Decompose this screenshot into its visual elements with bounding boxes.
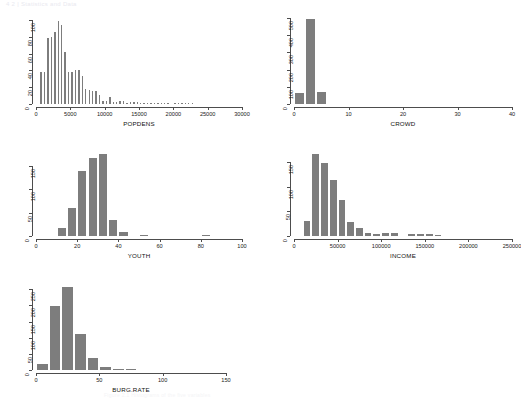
y-tick-label: 100 [30, 23, 36, 32]
histogram-bar [166, 103, 169, 104]
histogram-bar [88, 158, 98, 236]
y-tick-mark [29, 236, 32, 237]
histogram-bar [191, 103, 194, 104]
histogram-bar [57, 228, 67, 236]
y-tick-mark [29, 20, 32, 21]
y-tick-label: 500 [288, 21, 294, 30]
y-tick-mark [287, 35, 290, 36]
histogram-bar [108, 220, 118, 236]
x-tick-mark [105, 107, 106, 110]
histogram-bar [36, 364, 49, 370]
y-tick-mark [287, 70, 290, 71]
histogram-bar [112, 369, 125, 370]
histogram-bar [372, 234, 381, 236]
y-tick-label: 80 [27, 40, 33, 46]
x-tick-mark [294, 239, 295, 242]
x-tick-mark [36, 239, 37, 242]
y-tick-label: 150 [288, 165, 294, 174]
x-tick-label: 10 [345, 111, 351, 117]
x-tick-label: 50 [96, 377, 102, 383]
y-tick-label: 50 [285, 214, 291, 220]
x-tick-mark [403, 107, 404, 110]
x-tick-label: 100 [158, 377, 167, 383]
x-tick-mark [425, 239, 426, 242]
x-axis-line [36, 239, 242, 240]
histogram-bar [416, 234, 425, 236]
x-tick-label: 30000 [234, 111, 250, 117]
y-tick-mark [287, 18, 290, 19]
x-tick-label: 50000 [330, 243, 346, 249]
x-tick-mark [201, 239, 202, 242]
histogram-bar [49, 306, 62, 370]
y-tick-label: 200 [30, 308, 36, 317]
x-tick-mark [226, 373, 227, 376]
y-tick-mark [287, 162, 290, 163]
x-axis-title: POPDENS [123, 120, 155, 127]
y-tick-mark [287, 104, 290, 105]
x-tick-label: 20 [74, 243, 80, 249]
x-tick-mark [118, 239, 119, 242]
x-tick-mark [139, 107, 140, 110]
x-tick-label: 0 [34, 377, 37, 383]
x-axis-title: INCOME [390, 252, 416, 259]
x-tick-label: 60 [156, 243, 162, 249]
y-tick-label: 250 [30, 292, 36, 301]
x-tick-label: 30 [454, 111, 460, 117]
histogram-bar [118, 232, 128, 236]
y-tick-mark [29, 70, 32, 71]
x-tick-label: 0 [292, 111, 295, 117]
y-tick-mark [29, 189, 32, 190]
y-tick-mark [29, 87, 32, 88]
x-tick-mark [99, 373, 100, 376]
x-axis-line [36, 373, 226, 374]
x-tick-label: 100 [237, 243, 246, 249]
x-tick-mark [349, 107, 350, 110]
histogram-bar [390, 233, 399, 236]
y-tick-label: 300 [288, 55, 294, 64]
x-tick-mark [512, 107, 513, 110]
x-tick-mark [208, 107, 209, 110]
x-tick-label: 25000 [200, 111, 216, 117]
histogram-bar [346, 222, 355, 236]
histogram-bar [355, 228, 364, 236]
histogram-bar [67, 208, 77, 236]
y-tick-mark [29, 37, 32, 38]
x-tick-label: 20 [400, 111, 406, 117]
y-tick-mark [29, 289, 32, 290]
x-tick-mark [381, 239, 382, 242]
x-tick-label: 80 [198, 243, 204, 249]
histogram-bar [305, 19, 316, 104]
histogram-bar [74, 334, 87, 370]
histogram-bar [139, 235, 149, 236]
x-tick-mark [242, 107, 243, 110]
y-tick-label: 150 [30, 169, 36, 178]
y-tick-mark [29, 213, 32, 214]
y-tick-mark [29, 370, 32, 371]
y-tick-mark [287, 187, 290, 188]
histogram-bar [338, 200, 347, 236]
x-tick-mark [338, 239, 339, 242]
x-tick-mark [36, 373, 37, 376]
histogram-bar [425, 234, 434, 236]
y-tick-label: 20 [27, 90, 33, 96]
page-footer-caption: Figure 2.1 Histograms of the five variab… [104, 392, 211, 398]
histogram-bar [61, 287, 74, 370]
y-tick-mark [29, 338, 32, 339]
x-tick-mark [70, 107, 71, 110]
x-tick-label: 100000 [372, 243, 391, 249]
x-tick-label: 0 [34, 243, 37, 249]
y-tick-label: 60 [27, 57, 33, 63]
y-tick-label: 150 [30, 325, 36, 334]
x-axis-title: YOUTH [128, 252, 151, 259]
histogram-bar [87, 358, 100, 370]
x-tick-mark [173, 107, 174, 110]
x-tick-label: 150000 [415, 243, 434, 249]
y-tick-label: 200 [288, 73, 294, 82]
histogram-bar [316, 92, 327, 104]
x-axis-title: CROWD [390, 120, 415, 127]
x-tick-label: 0 [292, 243, 295, 249]
x-tick-label: 5000 [64, 111, 76, 117]
y-tick-label: 50 [27, 357, 33, 363]
x-tick-mark [77, 239, 78, 242]
histogram-bar [294, 93, 305, 104]
